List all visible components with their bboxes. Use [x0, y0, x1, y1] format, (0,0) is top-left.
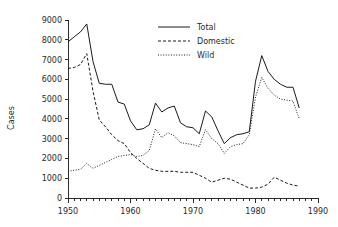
y-tick-label: 3000 [42, 135, 62, 144]
x-tick-label: 1950 [58, 207, 78, 216]
series-line-total [68, 24, 299, 144]
series-layer [68, 24, 299, 188]
series-line-domestic [68, 54, 299, 188]
legend-label-wild: Wild [197, 51, 214, 60]
x-tick-label: 1990 [308, 207, 328, 216]
chart-legend: TotalDomesticWild [158, 23, 235, 60]
y-tick-label: 9000 [42, 16, 62, 25]
y-axis: 0100020003000400050006000700080009000 [42, 16, 68, 203]
line-chart: 0100020003000400050006000700080009000 19… [0, 0, 338, 227]
x-tick-label: 1980 [245, 207, 265, 216]
y-tick-label: 6000 [42, 75, 62, 84]
y-tick-label: 7000 [42, 56, 62, 65]
x-tick-label: 1960 [120, 207, 140, 216]
x-tick-label: 1970 [183, 207, 203, 216]
legend-label-domestic: Domestic [197, 37, 235, 46]
y-tick-label: 1000 [42, 174, 62, 183]
y-tick-label: 2000 [42, 154, 62, 163]
legend-label-total: Total [196, 23, 216, 32]
chart-container: 0100020003000400050006000700080009000 19… [0, 0, 338, 227]
y-axis-title: Cases [7, 106, 16, 130]
x-axis: 19501960197019801990 [58, 198, 328, 216]
y-tick-label: 5000 [42, 95, 62, 104]
y-tick-label: 0 [57, 194, 62, 203]
y-tick-label: 4000 [42, 115, 62, 124]
y-tick-label: 8000 [42, 36, 62, 45]
